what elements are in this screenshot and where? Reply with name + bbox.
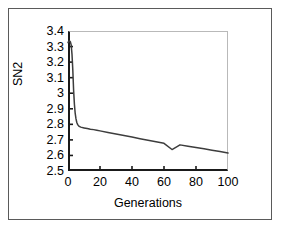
x-tick-label: 60 <box>157 176 171 189</box>
caption-fragment <box>10 232 272 243</box>
y-tick-label: 3.3 <box>34 40 64 53</box>
tick-marks <box>68 47 196 171</box>
y-tick-label: 2.6 <box>34 149 64 162</box>
x-tick-label: 0 <box>65 176 72 189</box>
y-axis-label: SN2 <box>11 62 25 86</box>
y-tick-label: 2.5 <box>34 165 64 178</box>
x-tick-label: 100 <box>218 176 239 189</box>
y-tick-label: 3.1 <box>34 71 64 84</box>
data-series-group <box>68 41 228 153</box>
x-tick-label: 80 <box>189 176 203 189</box>
y-tick-label: 2.7 <box>34 134 64 147</box>
y-tick-label: 2.8 <box>34 118 64 131</box>
data-series-line <box>68 41 228 153</box>
plot-canvas <box>68 31 228 171</box>
y-tick-label: 3.2 <box>34 56 64 69</box>
y-axis-tick-labels: 2.52.62.72.82.933.13.23.33.4 <box>30 31 64 171</box>
x-tick-label: 40 <box>125 176 139 189</box>
x-tick-label: 20 <box>93 176 107 189</box>
y-tick-label: 3.4 <box>34 25 64 38</box>
y-tick-label: 3 <box>34 87 64 100</box>
y-tick-label: 2.9 <box>34 103 64 116</box>
x-axis-label: Generations <box>68 196 228 210</box>
figure: SN2 2.52.62.72.82.933.13.23.33.4 0204060… <box>0 0 282 243</box>
x-axis-tick-labels: 020406080100 <box>68 176 228 194</box>
